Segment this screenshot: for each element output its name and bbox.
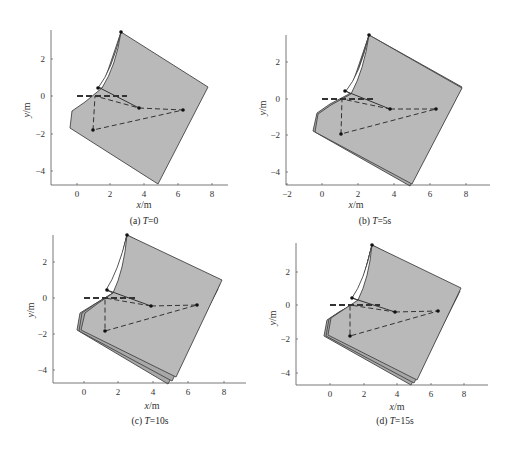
x-axis-label-d: x/m (388, 401, 404, 412)
panel-b: −2 0 2 4 6 8 2 0 −2 −4 x/m y/m (b) T=5s (257, 33, 490, 227)
plot-area-d (324, 243, 461, 385)
panel-a: 0 2 4 6 8 2 0 −2 −4 x/m y/m (a) T=0 (21, 30, 228, 227)
x-tick-label: 2 (108, 189, 113, 199)
y-axis-label-a: y/m (21, 102, 32, 118)
node-dot (393, 310, 397, 314)
y-tick-label: 0 (41, 91, 46, 101)
x-tick-label: 6 (186, 387, 191, 397)
plot-area-a (70, 30, 208, 184)
caption-d: (d) T=15s (376, 416, 414, 427)
x-tick-label: −2 (282, 189, 292, 199)
x-tick-label: 0 (328, 389, 333, 399)
node-dot (343, 89, 347, 93)
x-tick-label: 0 (320, 189, 325, 199)
y-tick-label: −2 (37, 329, 47, 339)
node-dot (436, 309, 440, 313)
y-tick-label: −4 (270, 167, 280, 177)
plot-area-c (77, 233, 222, 384)
node-dot (137, 106, 141, 110)
plot-area-b (313, 33, 462, 186)
y-tick-label: 0 (276, 94, 281, 104)
node-dot (149, 304, 153, 308)
node-dot (388, 107, 392, 111)
y-tick-label: −2 (35, 129, 45, 139)
x-axis-label-b: x/m (347, 199, 363, 210)
node-dot (181, 108, 185, 112)
y-tick-label: −4 (37, 365, 47, 375)
node-dot (434, 107, 438, 111)
x-tick-label: 8 (462, 389, 467, 399)
caption-c: (c) T=10s (132, 416, 169, 427)
x-tick-label: 8 (222, 387, 227, 397)
x-tick-label: 8 (210, 189, 215, 199)
node-dot (91, 128, 95, 132)
x-tick-label: 6 (176, 189, 181, 199)
y-tick-label: 2 (43, 257, 48, 267)
x-tick-label: 0 (75, 189, 80, 199)
y-axis-label-d: y/m (267, 310, 278, 326)
y-axis-label-b: y/m (257, 100, 268, 116)
panel-c: 0 2 4 6 8 2 0 −2 −4 x/m y/m (c) T=10s (25, 233, 246, 427)
x-tick-label: 4 (151, 387, 156, 397)
x-axis-label-c: x/m (143, 400, 159, 411)
x-tick-label: 6 (428, 189, 433, 199)
panel-d: 0 2 4 6 8 2 0 −2 −4 x/m y/m (d) T=15s (267, 243, 488, 427)
y-tick-label: 0 (43, 293, 48, 303)
node-dot (350, 296, 354, 300)
x-tick-label: 2 (362, 389, 367, 399)
x-tick-label: 6 (429, 389, 434, 399)
node-dot (339, 132, 343, 136)
node-dot (96, 86, 100, 90)
figure-canvas: 0 2 4 6 8 2 0 −2 −4 x/m y/m (a) T=0 (0, 0, 516, 453)
x-tick-label: 4 (142, 189, 147, 199)
caption-a: (a) T=0 (130, 216, 159, 227)
node-dot (195, 303, 199, 307)
x-tick-label: 4 (395, 389, 400, 399)
node-dot (125, 233, 129, 237)
y-tick-label: −2 (270, 130, 280, 140)
y-tick-label: 2 (276, 57, 281, 67)
x-tick-label: 2 (116, 387, 121, 397)
x-tick-label: 2 (356, 189, 361, 199)
y-tick-label: 0 (286, 300, 291, 310)
x-tick-label: 8 (464, 189, 469, 199)
node-dot (370, 243, 374, 247)
node-dot (105, 288, 109, 292)
y-tick-label: −2 (280, 334, 290, 344)
y-tick-label: 2 (286, 267, 291, 277)
y-tick-label: −4 (35, 166, 45, 176)
x-axis-label-a: x/m (135, 199, 151, 210)
node-dot (348, 334, 352, 338)
y-tick-label: 2 (41, 54, 46, 64)
y-axis-label-c: y/m (25, 302, 36, 318)
node-dot (103, 329, 107, 333)
y-tick-label: −4 (280, 368, 290, 378)
x-tick-label: 4 (392, 189, 397, 199)
x-tick-label: 0 (82, 387, 87, 397)
node-dot (367, 33, 371, 37)
node-dot (119, 30, 123, 34)
caption-b: (b) T=5s (359, 216, 392, 227)
